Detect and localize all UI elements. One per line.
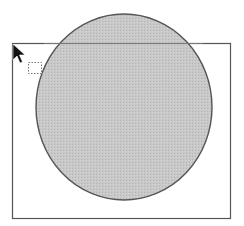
- arrow-pointer-icon: [13, 44, 25, 63]
- gray-circle-shape[interactable]: [36, 14, 212, 200]
- drawing-canvas[interactable]: [0, 0, 244, 226]
- selection-marquee: [29, 63, 42, 74]
